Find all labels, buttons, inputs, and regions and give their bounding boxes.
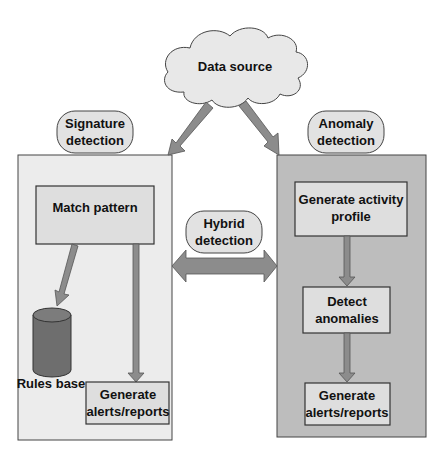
signature-title-line2: detection	[66, 133, 124, 148]
signature-alerts-line1: Generate	[100, 387, 156, 402]
anomaly-alerts-line1: Generate	[319, 388, 375, 403]
arrow-cloud-to-signature	[168, 102, 213, 155]
signature-alerts-line2: alerts/reports	[86, 404, 169, 419]
anomaly-title-line2: detection	[317, 133, 375, 148]
match-pattern-label: Match pattern	[52, 200, 137, 215]
profile-line2: profile	[331, 209, 371, 224]
hybrid-line2: detection	[195, 233, 253, 248]
rules-base-cylinder-icon	[33, 308, 71, 377]
detect-line2: anomalies	[315, 311, 379, 326]
ids-diagram: Data source Signature detection Anomaly …	[0, 0, 441, 453]
hybrid-double-arrow	[172, 250, 277, 282]
signature-title-line1: Signature	[65, 116, 125, 131]
detect-line1: Detect	[327, 294, 367, 309]
hybrid-line1: Hybrid	[203, 216, 244, 231]
arrow-cloud-to-anomaly	[239, 101, 279, 155]
anomaly-title-line1: Anomaly	[319, 116, 375, 131]
anomaly-alerts-line2: alerts/reports	[305, 405, 388, 420]
profile-line1: Generate activity	[299, 192, 405, 207]
rules-base-label: Rules base	[17, 376, 86, 391]
data-source-label: Data source	[198, 59, 272, 74]
match-pattern-box	[36, 186, 154, 244]
